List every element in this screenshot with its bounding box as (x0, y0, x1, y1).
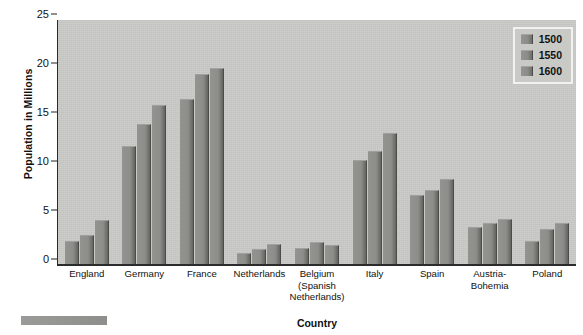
x-axis-labels: EnglandGermanyFranceNetherlandsBelgium(S… (58, 268, 576, 303)
x-axis-title: Country (58, 317, 576, 329)
legend-item-1600[interactable]: 1600 (521, 65, 562, 77)
bar-1550[interactable] (540, 229, 554, 264)
bar-group (461, 20, 519, 264)
bar-1500[interactable] (122, 146, 136, 264)
bar-1600[interactable] (555, 223, 569, 264)
bar-1550[interactable] (425, 190, 439, 264)
bar-1500[interactable] (410, 195, 424, 264)
bar-1600[interactable] (498, 219, 512, 264)
legend-label: 1600 (539, 65, 562, 77)
bar-group (403, 20, 461, 264)
bar-1600[interactable] (152, 105, 166, 264)
bar-group (116, 20, 174, 264)
x-axis-label: Austria-Bohemia (461, 268, 519, 303)
page-scan-artifact (21, 316, 107, 325)
legend-swatch-icon (521, 34, 533, 44)
bar-1550[interactable] (195, 74, 209, 264)
bar-1600[interactable] (267, 244, 281, 264)
bar-1600[interactable] (440, 179, 454, 264)
x-axis-line (57, 264, 576, 266)
population-bar-chart: Population in Millions 25 20 15 10 5 0 1… (0, 0, 583, 335)
plot-area (58, 20, 576, 264)
y-tick-label: 20 (23, 57, 49, 69)
bar-1550[interactable] (368, 151, 382, 264)
x-axis-label: France (173, 268, 231, 303)
legend: 1500 1550 1600 (513, 27, 573, 84)
bar-1550[interactable] (80, 235, 94, 264)
bar-group (173, 20, 231, 264)
bar-group (346, 20, 404, 264)
y-tick-label: 10 (23, 155, 49, 167)
x-axis-label: Italy (346, 268, 404, 303)
bar-1500[interactable] (525, 241, 539, 264)
legend-item-1550[interactable]: 1550 (521, 49, 562, 61)
x-axis-label: Belgium(SpanishNetherlands) (288, 268, 346, 303)
legend-swatch-icon (521, 50, 533, 60)
bar-1500[interactable] (468, 227, 482, 264)
bar-group (58, 20, 116, 264)
y-axis-ticks: 25 20 15 10 5 0 (20, 14, 57, 264)
bar-1600[interactable] (210, 68, 224, 264)
bar-1500[interactable] (295, 248, 309, 264)
legend-label: 1500 (539, 33, 562, 45)
x-axis-label: Netherlands (231, 268, 289, 303)
bar-group (288, 20, 346, 264)
legend-swatch-icon (521, 66, 533, 76)
bar-1600[interactable] (325, 245, 339, 264)
bar-groups (58, 20, 576, 264)
bar-1500[interactable] (237, 253, 251, 264)
x-axis-label: Spain (403, 268, 461, 303)
y-tick-label: 0 (23, 253, 49, 265)
legend-label: 1550 (539, 49, 562, 61)
bar-1550[interactable] (252, 249, 266, 264)
bar-1600[interactable] (95, 220, 109, 264)
x-axis-label: Poland (519, 268, 577, 303)
y-tick-label: 15 (23, 106, 49, 118)
legend-item-1500[interactable]: 1500 (521, 33, 562, 45)
bar-group (231, 20, 289, 264)
bar-1500[interactable] (180, 99, 194, 264)
bar-1500[interactable] (65, 241, 79, 264)
bar-1500[interactable] (353, 160, 367, 264)
bar-1550[interactable] (483, 223, 497, 264)
x-axis-label: England (58, 268, 116, 303)
bar-1550[interactable] (137, 124, 151, 264)
y-tick-label: 25 (23, 8, 49, 20)
bar-1550[interactable] (310, 242, 324, 264)
x-axis-label: Germany (116, 268, 174, 303)
bar-1600[interactable] (383, 133, 397, 264)
y-tick-label: 5 (23, 204, 49, 216)
